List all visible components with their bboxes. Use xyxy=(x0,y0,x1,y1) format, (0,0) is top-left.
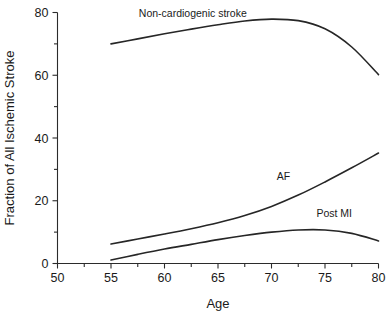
axis-lines xyxy=(58,13,379,264)
x-tick-label: 75 xyxy=(318,271,332,285)
series-line xyxy=(111,19,379,75)
series-line xyxy=(111,230,379,260)
y-tick-label: 0 xyxy=(42,257,49,271)
series-layer xyxy=(111,19,379,260)
x-tick-label: 60 xyxy=(158,271,172,285)
x-axis-title: Age xyxy=(206,296,229,311)
x-tick-label: 65 xyxy=(211,271,225,285)
x-tick-label: 80 xyxy=(372,271,386,285)
tick-labels-layer: 02040608050556065707580 xyxy=(35,6,386,285)
line-chart: 02040608050556065707580 Non-cardiogenic … xyxy=(0,0,391,311)
y-tick-label: 20 xyxy=(35,194,49,208)
axes-layer xyxy=(58,13,379,264)
x-tick-label: 55 xyxy=(104,271,118,285)
x-tick-label: 70 xyxy=(265,271,279,285)
series-labels-layer: Non-cardiogenic strokeAFPost MI xyxy=(139,7,352,219)
y-axis-title: Fraction of All Ischemic Stroke xyxy=(2,51,17,226)
x-tick-label: 50 xyxy=(51,271,65,285)
series-label: Post MI xyxy=(316,207,352,219)
series-label: AF xyxy=(277,170,290,182)
y-tick-label: 80 xyxy=(35,6,49,20)
chart-container: 02040608050556065707580 Non-cardiogenic … xyxy=(0,0,391,311)
y-tick-label: 60 xyxy=(35,69,49,83)
series-label: Non-cardiogenic stroke xyxy=(139,7,247,19)
y-tick-label: 40 xyxy=(35,132,49,146)
